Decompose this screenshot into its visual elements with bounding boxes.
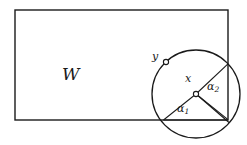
angle-label-alpha-1: α1 bbox=[177, 103, 189, 116]
point-label-x: x bbox=[185, 73, 191, 84]
angle-label-alpha-2: α2 bbox=[207, 81, 219, 94]
point-label-y: y bbox=[152, 51, 158, 62]
point-y-marker bbox=[163, 59, 168, 64]
region-label-w: W bbox=[62, 66, 79, 83]
figure-canvas bbox=[0, 0, 247, 145]
angle-alpha-2-subscript: 2 bbox=[214, 85, 219, 94]
angle-alpha-1-subscript: 1 bbox=[184, 107, 189, 116]
rectangle-w-outline bbox=[15, 10, 228, 120]
radius-to-corner-lower-line bbox=[196, 94, 229, 123]
geometry-figure: W x y α1 α2 bbox=[0, 0, 247, 145]
center-point-marker bbox=[193, 91, 198, 96]
